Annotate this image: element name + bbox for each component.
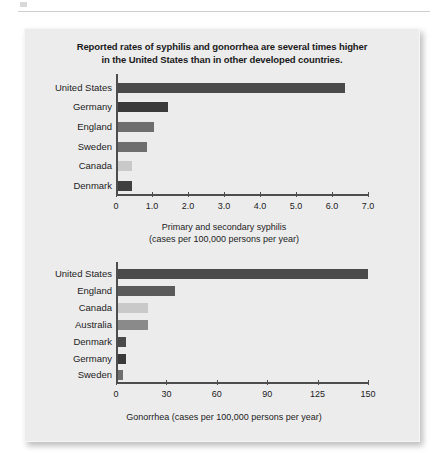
chart-syphilis-x-tick-labels: 01.02.03.04.05.06.07.0 bbox=[116, 201, 369, 213]
bar bbox=[118, 161, 132, 171]
x-axis-tick bbox=[188, 192, 189, 197]
bar bbox=[118, 286, 175, 296]
x-axis-tick bbox=[152, 192, 153, 197]
bar-row-label: Canada bbox=[79, 303, 112, 313]
bar bbox=[118, 337, 126, 347]
chart-syphilis-plot-area: United StatesGermanyEnglandSwedenCanadaD… bbox=[116, 78, 368, 196]
bar-row: Sweden bbox=[118, 137, 368, 157]
chart-syphilis-caption-line-1: Primary and secondary syphilis bbox=[162, 222, 287, 232]
chart-gonorrhea-x-tick-labels: 0306090125150 bbox=[116, 389, 369, 401]
x-axis-tick-label: 0 bbox=[113, 389, 118, 399]
bar bbox=[118, 142, 147, 152]
x-axis-tick-label: 5.0 bbox=[290, 201, 303, 211]
bar-row: Germany bbox=[118, 350, 368, 367]
bar-row-label: Sweden bbox=[78, 370, 112, 380]
bar-row: United States bbox=[118, 266, 368, 283]
bar-row: United States bbox=[118, 78, 368, 98]
bar bbox=[118, 354, 126, 364]
bar-row-label: United States bbox=[55, 269, 112, 279]
bar-row-label: Australia bbox=[75, 320, 112, 330]
chart-gonorrhea-x-ticks bbox=[116, 380, 369, 385]
bar-row: England bbox=[118, 283, 368, 300]
x-axis-tick-label: 60 bbox=[212, 389, 222, 399]
x-axis-tick bbox=[260, 192, 261, 197]
figure-title-line-2: in the United States than in other devel… bbox=[101, 54, 342, 65]
bar-row-label: Germany bbox=[73, 354, 112, 364]
x-axis-tick-label: 30 bbox=[161, 389, 171, 399]
x-axis-tick bbox=[116, 192, 117, 197]
x-axis-tick bbox=[296, 192, 297, 197]
x-axis-tick-label: 1.0 bbox=[146, 201, 159, 211]
bar-row: Canada bbox=[118, 300, 368, 317]
page-corner-mark bbox=[20, 2, 27, 7]
bar bbox=[118, 102, 168, 112]
chart-syphilis-x-ticks bbox=[116, 192, 369, 197]
bar-row-label: Denmark bbox=[73, 337, 112, 347]
x-axis-tick-label: 6.0 bbox=[326, 201, 339, 211]
x-axis-tick-label: 7.0 bbox=[362, 201, 375, 211]
figure-title: Reported rates of syphilis and gonorrhea… bbox=[38, 40, 406, 66]
figure-panel: Reported rates of syphilis and gonorrhea… bbox=[24, 28, 420, 442]
x-axis-tick bbox=[368, 380, 369, 385]
x-axis-tick bbox=[166, 380, 167, 385]
chart-gonorrhea-caption-line-1: Gonorrhea (cases per 100,000 persons per… bbox=[126, 412, 322, 422]
x-axis-tick bbox=[332, 192, 333, 197]
x-axis-tick bbox=[318, 380, 319, 385]
bar-row-label: England bbox=[77, 122, 112, 132]
bar-row: Canada bbox=[118, 157, 368, 177]
chart-syphilis-x-axis-caption: Primary and secondary syphilis (cases pe… bbox=[64, 222, 384, 245]
bar bbox=[118, 269, 368, 279]
x-axis-tick-label: 0 bbox=[113, 201, 118, 211]
bar-row: Denmark bbox=[118, 333, 368, 350]
page-top-rule bbox=[18, 11, 430, 12]
x-axis-tick bbox=[217, 380, 218, 385]
chart-gonorrhea: United StatesEnglandCanadaAustraliaDenma… bbox=[24, 260, 420, 440]
bar-row: Germany bbox=[118, 98, 368, 118]
chart-gonorrhea-x-axis-caption: Gonorrhea (cases per 100,000 persons per… bbox=[64, 412, 384, 424]
chart-syphilis-bars: United StatesGermanyEnglandSwedenCanadaD… bbox=[118, 78, 368, 194]
bar-row-label: England bbox=[77, 286, 112, 296]
x-axis-tick bbox=[116, 380, 117, 385]
bar bbox=[118, 303, 148, 313]
x-axis-tick bbox=[224, 192, 225, 197]
x-axis-tick bbox=[267, 380, 268, 385]
x-axis-tick-label: 4.0 bbox=[254, 201, 267, 211]
bar-row: Australia bbox=[118, 317, 368, 334]
x-axis-tick-label: 125 bbox=[310, 389, 325, 399]
chart-syphilis: United StatesGermanyEnglandSwedenCanadaD… bbox=[24, 72, 420, 252]
bar bbox=[118, 83, 345, 93]
x-axis-tick-label: 90 bbox=[262, 389, 272, 399]
x-axis-tick-label: 3.0 bbox=[218, 201, 231, 211]
bar-row-label: Canada bbox=[79, 161, 112, 171]
bar bbox=[118, 122, 154, 132]
x-axis-tick-label: 2.0 bbox=[182, 201, 195, 211]
chart-gonorrhea-plot-area: United StatesEnglandCanadaAustraliaDenma… bbox=[116, 266, 368, 384]
x-axis-tick-label: 150 bbox=[360, 389, 375, 399]
bar-row-label: Germany bbox=[73, 102, 112, 112]
bar-row-label: Denmark bbox=[73, 181, 112, 191]
figure-title-line-1: Reported rates of syphilis and gonorrhea… bbox=[77, 41, 368, 52]
bar bbox=[118, 320, 148, 330]
bar-row: England bbox=[118, 117, 368, 137]
chart-syphilis-caption-line-2: (cases per 100,000 persons per year) bbox=[149, 234, 299, 244]
bar bbox=[118, 370, 123, 380]
chart-gonorrhea-bars: United StatesEnglandCanadaAustraliaDenma… bbox=[118, 266, 368, 382]
bar bbox=[118, 181, 132, 191]
bar-row-label: United States bbox=[55, 83, 112, 93]
bar-row-label: Sweden bbox=[78, 142, 112, 152]
x-axis-tick bbox=[368, 192, 369, 197]
